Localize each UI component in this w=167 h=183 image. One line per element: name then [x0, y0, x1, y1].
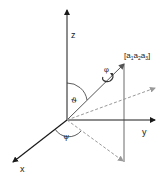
dashed-projection-upper — [67, 88, 155, 120]
psi-label: ψ — [63, 132, 69, 141]
y-axis-label: y — [142, 127, 147, 137]
x-axis — [13, 120, 67, 162]
vector-label: [a1a2a3] — [124, 51, 150, 61]
x-axis-label: x — [20, 164, 25, 174]
coordinate-diagram: z y x ϑ ψ φ [a1a2a3] — [0, 0, 167, 183]
vector-a — [67, 64, 124, 120]
theta-arc — [67, 83, 87, 100]
theta-label: ϑ — [71, 96, 77, 105]
z-axis-label: z — [71, 30, 76, 40]
phi-label: φ — [104, 66, 109, 74]
dashed-projection-lower — [67, 120, 123, 161]
